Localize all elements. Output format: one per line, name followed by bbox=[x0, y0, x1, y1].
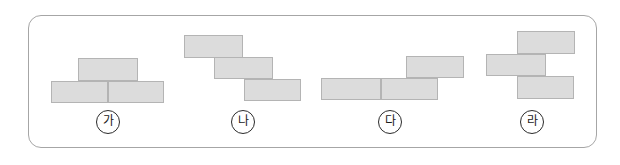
figure-ga-brick-top bbox=[78, 58, 138, 81]
figure-na-brick-step-2 bbox=[214, 57, 273, 79]
figure-ga-brick-bottom-left bbox=[51, 81, 108, 103]
figure-ra-brick-middle bbox=[486, 54, 546, 76]
figure-canvas: 가 나 다 라 bbox=[0, 0, 620, 165]
figure-ga-brick-bottom-right bbox=[108, 81, 164, 103]
figure-ra-brick-top bbox=[517, 31, 575, 54]
figure-na-label: 나 bbox=[231, 110, 255, 134]
figure-da-brick-bottom-right bbox=[381, 78, 438, 100]
figure-ra-brick-bottom bbox=[517, 76, 574, 99]
figure-ra-label: 라 bbox=[520, 110, 544, 134]
figure-da-label: 다 bbox=[378, 110, 402, 134]
figure-ga-label: 가 bbox=[96, 110, 120, 134]
figure-da-brick-bottom-left bbox=[321, 78, 381, 100]
figure-da-brick-top-right bbox=[406, 56, 464, 78]
figure-na-brick-step-1 bbox=[184, 35, 243, 58]
figure-na-brick-step-3 bbox=[244, 79, 301, 101]
